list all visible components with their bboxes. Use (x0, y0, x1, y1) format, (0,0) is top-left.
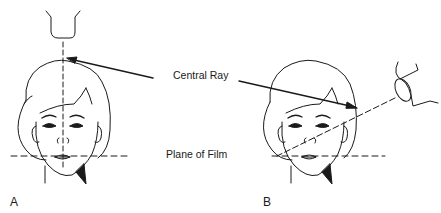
panel-a-drawing (11, 11, 153, 184)
radiography-diagram (0, 0, 441, 213)
panel-b-drawing (239, 60, 438, 184)
central-ray-label: Central Ray (173, 69, 228, 81)
plane-of-film-label: Plane of Film (166, 148, 227, 160)
xray-tube-icon (46, 11, 80, 38)
panel-label-a: A (10, 195, 18, 209)
panel-label-b: B (263, 195, 271, 209)
